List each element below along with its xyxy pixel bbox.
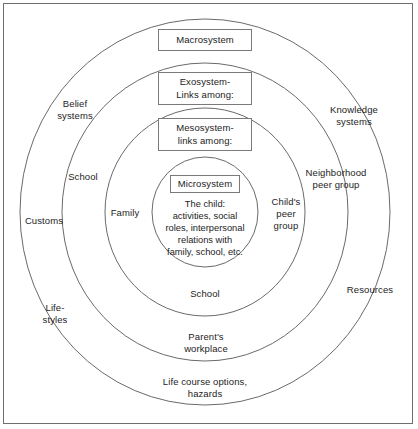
label-family: Family — [100, 207, 150, 219]
label-customs: Customs — [14, 215, 74, 227]
figure-root: Macrosystem Exosystem- Links among: Meso… — [0, 0, 418, 429]
label-life-styles: Life- styles — [33, 302, 77, 326]
label-neighborhood-peer-group: Neighborhood peer group — [294, 167, 378, 191]
box-mesosystem-label: Mesosystem- links among: — [176, 122, 234, 147]
label-parents-workplace: Parent's workplace — [168, 331, 244, 355]
box-exosystem-label: Exosystem- Links among: — [176, 76, 234, 101]
label-school-mesosystem: School — [180, 288, 230, 300]
label-school-exosystem: School — [58, 171, 108, 183]
box-macrosystem-label: Macrosystem — [176, 34, 234, 47]
box-macrosystem: Macrosystem — [158, 29, 252, 51]
box-microsystem: Microsystem — [170, 175, 240, 193]
label-knowledge-systems: Knowledge systems — [318, 104, 390, 128]
label-childs-peer-group: Child's peer group — [262, 196, 310, 232]
box-exosystem: Exosystem- Links among: — [158, 72, 252, 105]
label-resources: Resources — [338, 284, 402, 296]
box-mesosystem: Mesosystem- links among: — [158, 118, 252, 151]
microsystem-description: The child: activities, social roles, int… — [145, 198, 265, 258]
box-microsystem-label: Microsystem — [178, 178, 232, 191]
label-belief-systems: Belief systems — [44, 98, 106, 122]
label-life-course-options: Life course options, hazards — [125, 376, 285, 400]
